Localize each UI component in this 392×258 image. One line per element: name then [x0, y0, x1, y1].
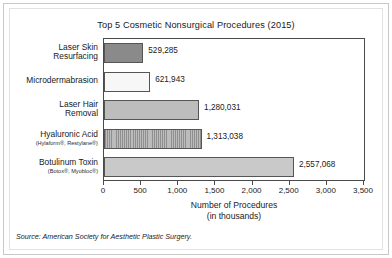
bar-row: 621,943	[104, 68, 364, 97]
x-tick-label: 3,500	[353, 186, 373, 195]
x-tick-label: 1,500	[204, 186, 224, 195]
bar-value-label: 1,313,038	[207, 132, 243, 141]
source-label: Source:	[16, 232, 41, 241]
bar-row: 1,313,038	[104, 125, 364, 154]
chart-title: Top 5 Cosmetic Nonsurgical Procedures (2…	[9, 20, 383, 30]
x-tick-label: 3,000	[316, 186, 336, 195]
bar-value-label: 621,943	[155, 75, 185, 84]
category-label-laser-hair-removal: Laser Hair Removal	[9, 95, 101, 124]
bar-botulinum-toxin[interactable]	[104, 157, 294, 177]
source-note: Source: American Society for Aesthetic P…	[16, 232, 192, 241]
bar-value-label: 529,285	[148, 46, 178, 55]
x-tickmark	[140, 181, 141, 185]
source-text: American Society for Aesthetic Plastic S…	[41, 232, 192, 241]
x-axis-tick-labels: 05001,0001,5002,0002,5003,0003,500	[103, 186, 365, 198]
category-axis-labels: Laser Skin Resurfacing Microdermabrasion…	[9, 38, 101, 181]
category-sublabel: (Botox®, Myobloc®)	[48, 168, 98, 175]
category-label-hyaluronic-acid: Hyaluronic Acid (Hylaform®, Restylane®)	[9, 124, 101, 153]
bar-laser-hair-removal[interactable]	[104, 100, 199, 120]
x-tickmark	[177, 181, 178, 185]
x-tick-label: 2,500	[279, 186, 299, 195]
x-tickmark	[103, 181, 104, 185]
bar-laser-skin-resurfacing[interactable]	[104, 43, 143, 63]
x-tick-label: 1,000	[167, 186, 187, 195]
category-label-line1: Microdermabrasion	[26, 76, 98, 86]
x-tick-label: 500	[133, 186, 146, 195]
plot-area: 529,285 621,943 1,280,031 1,313,038 2,55…	[103, 38, 365, 181]
x-tickmark	[289, 181, 290, 185]
x-axis-tickmarks	[103, 181, 365, 185]
x-tickmark	[214, 181, 215, 185]
x-tick-label: 2,000	[242, 186, 262, 195]
bar-row: 529,285	[104, 39, 364, 68]
category-label-microdermabrasion: Microdermabrasion	[9, 67, 101, 96]
x-tickmark	[326, 181, 327, 185]
bar-value-label: 1,280,031	[204, 103, 240, 112]
x-axis-title: Number of Procedures (in thousands)	[103, 200, 365, 222]
category-label-line2: Resurfacing	[53, 52, 98, 62]
category-label-line1: Hyaluronic Acid	[40, 130, 98, 140]
bar-row: 2,557,068	[104, 153, 364, 182]
chart-figure: Top 5 Cosmetic Nonsurgical Procedures (2…	[0, 0, 392, 258]
category-sublabel: (Hylaform®, Restylane®)	[36, 140, 98, 147]
category-label-laser-skin-resurfacing: Laser Skin Resurfacing	[9, 38, 101, 67]
x-tickmark	[363, 181, 364, 185]
x-axis-title-line2: (in thousands)	[103, 211, 365, 222]
bar-microdermabrasion[interactable]	[104, 72, 150, 92]
bar-hyaluronic-acid[interactable]	[104, 129, 202, 149]
category-label-line1: Botulinum Toxin	[39, 158, 98, 168]
x-tick-label: 0	[101, 186, 105, 195]
x-tickmark	[252, 181, 253, 185]
category-label-botulinum-toxin: Botulinum Toxin (Botox®, Myobloc®)	[9, 152, 101, 181]
category-label-line2: Removal	[65, 109, 98, 119]
bar-value-label: 2,557,068	[299, 160, 335, 169]
x-axis-title-line1: Number of Procedures	[103, 200, 365, 211]
bar-row: 1,280,031	[104, 96, 364, 125]
